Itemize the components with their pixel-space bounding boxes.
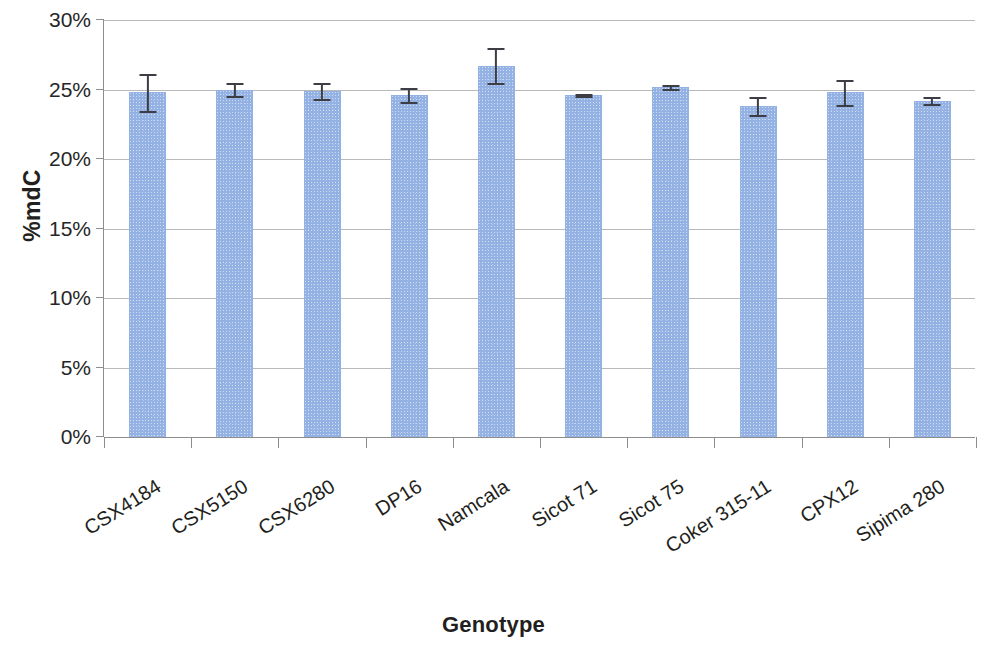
y-axis-tick-label: 20% [49,147,91,171]
error-bar-cap-upper [226,83,243,85]
error-bar-cap-lower [314,99,331,101]
error-bar-cap-lower [837,105,854,107]
error-bar-cap-upper [837,80,854,82]
bar-chart-figure: %mdC 0%5%10%15%20%25%30% CSX4184CSX5150C… [0,0,987,653]
x-axis-tick-mark [366,437,367,448]
bar [478,66,515,437]
bar [129,92,166,437]
y-axis-tick-mark [96,228,104,229]
bar [827,92,864,437]
y-axis-tick-label: 30% [49,8,91,32]
error-bar-cap-upper [662,85,679,87]
error-bar-cap-upper [139,74,156,76]
error-bar-cap-upper [401,88,418,90]
error-bar-cap-lower [662,89,679,91]
x-axis-title: Genotype [0,612,987,638]
error-bar-cap-lower [226,96,243,98]
error-bar [408,88,410,102]
x-axis-tick-mark [627,437,628,448]
error-bar-cap-upper [488,48,505,50]
x-axis-tick-mark [278,437,279,448]
y-axis-tick-mark [96,158,104,159]
y-axis-tick-label: 5% [61,356,91,380]
error-bar [146,74,148,112]
x-axis-tick-mark [191,437,192,448]
gridline [104,20,975,21]
error-bar-cap-lower [750,115,767,117]
bar [652,87,689,437]
error-bar-cap-upper [750,97,767,99]
x-axis-tick-mark [453,437,454,448]
x-axis-tick-mark [802,437,803,448]
error-bar [495,48,497,83]
bar [565,95,602,437]
error-bar [844,80,846,105]
error-bar [757,97,759,115]
y-axis-tick-mark [96,89,104,90]
error-bar-cap-upper [924,97,941,99]
bar [391,95,428,437]
x-axis-tick-mark [976,437,977,448]
y-axis-tick-label: 0% [61,425,91,449]
x-axis-tick-mark [714,437,715,448]
y-axis-tick-label: 10% [49,286,91,310]
y-axis-title: %mdC [19,136,46,276]
error-bar-cap-upper [314,83,331,85]
error-bar-cap-lower [924,104,941,106]
x-axis-tick-mark [889,437,890,448]
x-axis-tick-mark [540,437,541,448]
bar [216,90,253,438]
bar [740,106,777,437]
bar [914,101,951,437]
error-bar [321,83,323,100]
y-axis-tick-mark [96,19,104,20]
error-bar-cap-lower [401,102,418,104]
error-bar-cap-lower [139,111,156,113]
error-bar-cap-upper [575,94,592,96]
y-axis-tick-mark [96,436,104,437]
plot-area: 0%5%10%15%20%25%30% [103,20,975,437]
x-axis-tick-mark [104,437,105,448]
y-axis-tick-mark [96,297,104,298]
bar [304,91,341,437]
y-axis-tick-label: 15% [49,217,91,241]
error-bar-cap-lower [488,83,505,85]
y-axis-tick-label: 25% [49,78,91,102]
y-axis-tick-mark [96,367,104,368]
error-bar-cap-lower [575,96,592,98]
